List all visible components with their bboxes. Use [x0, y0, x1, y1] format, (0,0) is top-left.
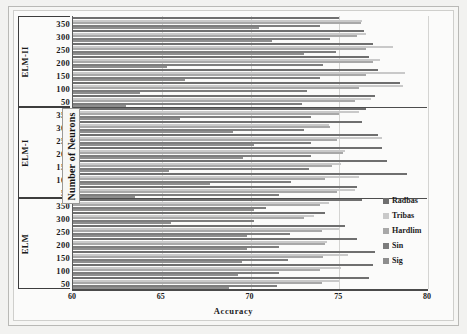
bar-elm-250-sig: [73, 235, 247, 237]
bar-elm-i-100-sig: [73, 183, 210, 185]
legend-item-tribas[interactable]: Tribas: [383, 209, 421, 222]
legend-label-hardlim: Hardlim: [392, 226, 421, 235]
legend-swatch-radbas-icon: [383, 198, 389, 204]
y-axis-title-box: Number of Neurons: [62, 108, 80, 204]
bar-elm-350-sig: [73, 209, 254, 211]
x-axis-line: [72, 289, 428, 291]
group-label-elm: ELM: [20, 233, 30, 254]
group-label-elm-i: ELM-I: [20, 139, 30, 167]
legend-item-sin[interactable]: Sin: [383, 239, 421, 252]
bar-elm-300-sig: [73, 222, 171, 224]
bar-elm-150-sig: [73, 261, 242, 263]
bar-elm-i-150-sig: [73, 170, 169, 172]
legend-swatch-hardlim-icon: [383, 228, 389, 234]
bar-elm-i-250-sig: [73, 144, 254, 146]
bar-elm-i-300-sig: [73, 131, 233, 133]
figure-canvas: 3503002502001501005035030025020015010050…: [0, 0, 467, 334]
legend-label-tribas: Tribas: [392, 211, 414, 220]
x-tick-75: 75: [323, 292, 353, 301]
bar-elm-ii-200-sig: [73, 66, 167, 68]
legend-swatch-tribas-icon: [383, 213, 389, 219]
bar-elm-ii-250-sig: [73, 53, 304, 55]
group-separator: [73, 107, 427, 108]
legend-swatch-sig-icon: [383, 258, 389, 264]
bar-elm-i-200-sig: [73, 157, 243, 159]
group-label-box-elm: ELM: [14, 198, 36, 289]
bar-elm-200-sig: [73, 248, 247, 250]
y-axis-title: Number of Neurons: [66, 112, 77, 200]
group-separator: [73, 198, 427, 199]
bar-elm-ii-150-sig: [73, 79, 185, 81]
x-tick-65: 65: [146, 292, 176, 301]
legend-label-sin: Sin: [392, 241, 403, 250]
x-tick-70: 70: [235, 292, 265, 301]
legend-label-sig: Sig: [392, 256, 403, 265]
group-label-box-elm-i: ELM-I: [14, 107, 36, 198]
bar-elm-100-sig: [73, 274, 238, 276]
bar-elm-ii-100-sig: [73, 92, 140, 94]
plot-area: [72, 16, 427, 289]
legend-swatch-sin-icon: [383, 243, 389, 249]
legend-label-radbas: Radbas: [392, 196, 418, 205]
legend-item-sig[interactable]: Sig: [383, 254, 421, 267]
group-label-elm-ii: ELM-II: [20, 46, 30, 77]
x-axis-title: Accuracy: [0, 306, 467, 316]
x-tick-80: 80: [412, 292, 442, 301]
bar-elm-i-350-sig: [73, 118, 180, 120]
gridline-80: [428, 16, 429, 289]
x-tick-60: 60: [57, 292, 87, 301]
chart-legend: RadbasTribasHardlimSinSig: [383, 194, 421, 269]
legend-item-hardlim[interactable]: Hardlim: [383, 224, 421, 237]
group-label-box-elm-ii: ELM-II: [14, 16, 36, 107]
bar-elm-ii-350-sig: [73, 27, 259, 29]
legend-item-radbas[interactable]: Radbas: [383, 194, 421, 207]
bar-elm-ii-300-sig: [73, 40, 272, 42]
